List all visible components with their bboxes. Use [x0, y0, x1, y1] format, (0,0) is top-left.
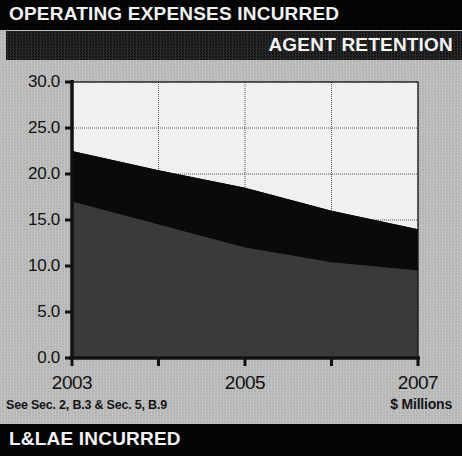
subtitle-label: AGENT RETENTION — [268, 34, 453, 56]
footer-label: L&LAE INCURRED — [9, 428, 181, 450]
y-axis-tick-label: 5.0 — [8, 302, 60, 322]
chart-title-bar: OPERATING EXPENSES INCURRED — [0, 0, 462, 30]
x-axis-tick-label: 2007 — [373, 372, 462, 394]
x-axis-tick-label: 2003 — [27, 372, 117, 394]
chart-card: OPERATING EXPENSES INCURRED AGENT RETENT… — [0, 0, 462, 456]
page-title: OPERATING EXPENSES INCURRED — [9, 3, 339, 25]
y-axis-tick-label: 20.0 — [8, 164, 60, 184]
y-axis-tick-label: 25.0 — [8, 118, 60, 138]
source-note: See Sec. 2, B.3 & Sec. 5, B.9 — [6, 398, 167, 412]
plot-area: 0.05.010.015.020.025.030.0200320052007 — [0, 60, 462, 424]
y-axis-tick-label: 30.0 — [8, 72, 60, 92]
chart-footer-bar: L&LAE INCURRED — [0, 424, 462, 456]
y-axis-tick-label: 0.0 — [8, 348, 60, 368]
y-axis-tick-label: 15.0 — [8, 210, 60, 230]
x-axis-tick-label: 2005 — [200, 372, 290, 394]
y-axis-tick-label: 10.0 — [8, 256, 60, 276]
units-note: $ Millions — [390, 396, 452, 412]
stacked-area-chart — [0, 60, 462, 424]
chart-subtitle-bar: AGENT RETENTION — [6, 31, 462, 60]
